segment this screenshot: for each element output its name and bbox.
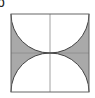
geometry-figure <box>0 0 95 98</box>
